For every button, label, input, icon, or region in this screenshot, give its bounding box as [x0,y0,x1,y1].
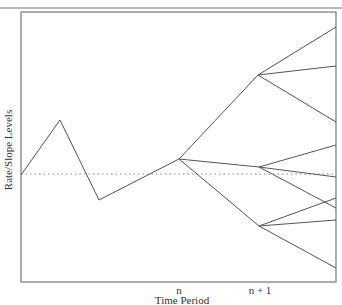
branches-period-n [179,75,259,226]
x-tick-n-plus-1: n + 1 [249,284,272,296]
branch-line [259,145,336,167]
plot-frame [21,12,336,282]
branch-line [259,167,336,177]
rate-tree-diagram: Rate/Slope Levels n n + 1 Time Period [0,0,342,305]
y-axis-label: Rate/Slope Levels [2,110,14,190]
branch-line [259,198,336,226]
branch-line [259,220,336,226]
x-axis-label: Time Period [155,294,210,305]
branch-line [179,159,259,226]
history-path [21,120,179,200]
branches-period-n-plus-1 [258,27,336,268]
branch-line [179,75,258,159]
branch-line [258,75,336,122]
branch-line [259,226,336,268]
branch-line [179,159,259,167]
